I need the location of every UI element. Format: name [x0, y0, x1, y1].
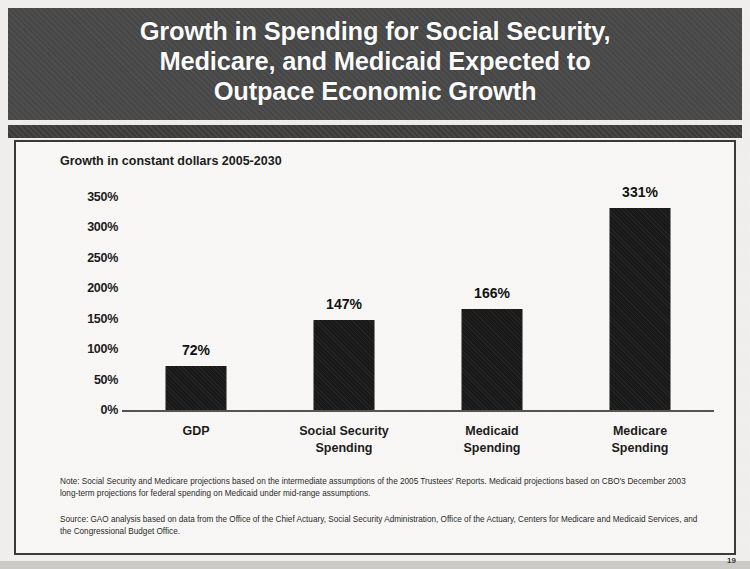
x-axis-category-medicaid: Medicaid Spending	[464, 423, 521, 457]
header-lower-band	[8, 125, 742, 138]
chart-panel: Growth in constant dollars 2005-2030 350…	[14, 140, 736, 555]
bar-value-label: 331%	[622, 184, 658, 200]
category-line: Social Security	[299, 423, 389, 440]
slide-title-line-1: Growth in Spending for Social Security,	[140, 17, 611, 47]
y-axis-tick: 300%	[40, 220, 118, 234]
y-axis-tick: 350%	[40, 190, 118, 204]
y-axis-tick: 150%	[40, 312, 118, 326]
category-line: GDP	[182, 423, 209, 440]
category-line: Spending	[299, 440, 389, 457]
x-axis-category-gdp: GDP	[182, 423, 209, 440]
y-axis-tick: 100%	[40, 342, 118, 356]
slide-title-line-2: Medicare, and Medicaid Expected to	[140, 47, 611, 77]
slide-bottom-edge	[0, 561, 750, 569]
y-axis-tick: 200%	[40, 281, 118, 295]
bar-medicare	[610, 208, 671, 410]
bar-gdp	[166, 366, 227, 410]
chart-note: Note: Social Security and Medicare proje…	[60, 476, 700, 499]
page-number: 19	[727, 556, 736, 565]
bar-medicaid	[462, 309, 523, 410]
y-axis-tick: 0%	[40, 403, 118, 417]
y-axis-tick: 50%	[40, 373, 118, 387]
bar-value-label: 166%	[474, 285, 510, 301]
slide-title: Growth in Spending for Social Security, …	[140, 17, 611, 106]
slide-header-banner: Growth in Spending for Social Security, …	[8, 8, 742, 120]
x-axis-category-social-security: Social Security Spending	[299, 423, 389, 457]
category-line: Medicaid	[464, 423, 521, 440]
category-line: Medicare	[612, 423, 669, 440]
x-axis-category-medicare: Medicare Spending	[612, 423, 669, 457]
category-line: Spending	[612, 440, 669, 457]
slide-title-line-3: Outpace Economic Growth	[140, 77, 611, 107]
chart-source: Source: GAO analysis based on data from …	[60, 514, 700, 537]
slide-root: Growth in Spending for Social Security, …	[0, 0, 750, 569]
y-axis-tick: 250%	[40, 251, 118, 265]
category-line: Spending	[464, 440, 521, 457]
bar-social-security	[314, 320, 375, 410]
bar-value-label: 147%	[326, 296, 362, 312]
bar-value-label: 72%	[182, 342, 210, 358]
